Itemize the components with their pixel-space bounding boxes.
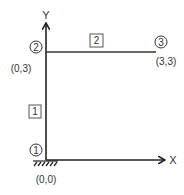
x-axis: X (46, 154, 177, 166)
node-3-label: 3 (158, 37, 164, 48)
node-3-coord: (3,3) (156, 56, 177, 67)
node-1-label: 1 (33, 145, 39, 156)
element-1-label-box: 1 (29, 105, 41, 118)
y-axis-label: Y (42, 9, 50, 21)
node-3: 3 (3,3) (155, 36, 176, 67)
fixed-support-icon (33, 161, 58, 166)
element-2-label-box: 2 (90, 34, 103, 47)
y-axis: Y (42, 9, 50, 160)
x-axis-label: X (169, 154, 177, 166)
node-1-coord: (0,0) (36, 174, 57, 185)
node-2: 2 (0,3) (11, 41, 42, 74)
node-2-label: 2 (33, 42, 39, 53)
element-1-label: 1 (32, 106, 38, 117)
frame-diagram: Y X 1 (0,0) 2 (0,3) 3 (3,3) 1 (0, 0, 184, 195)
node-2-coord: (0,3) (11, 63, 32, 74)
element-2-label: 2 (94, 35, 100, 46)
